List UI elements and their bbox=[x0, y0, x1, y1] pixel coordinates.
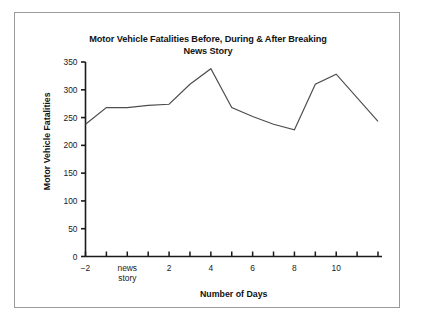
y-axis-tick-label: 300 bbox=[64, 85, 78, 95]
y-axis-tick-label: 350 bbox=[64, 57, 78, 67]
x-axis-tick-label: 10 bbox=[332, 263, 342, 273]
y-axis-tick-label: 200 bbox=[64, 140, 78, 150]
x-axis-tick-label: 2 bbox=[167, 263, 172, 273]
x-axis: −2newsstory246810 bbox=[81, 252, 382, 283]
y-axis-tick-label: 100 bbox=[64, 196, 78, 206]
x-axis-tick-label: 6 bbox=[250, 263, 255, 273]
x-axis-tick-label: news bbox=[118, 263, 138, 273]
y-axis-tick-label: 150 bbox=[64, 168, 78, 178]
line-chart-plot: 050100150200250300350 −2newsstory246810 … bbox=[0, 0, 421, 326]
x-axis-tick-label: story bbox=[118, 273, 137, 283]
x-axis-title: Number of Days bbox=[200, 289, 268, 299]
y-axis-title: Motor Vehicle Fatalities bbox=[42, 92, 52, 190]
y-axis-tick-label: 0 bbox=[73, 252, 78, 262]
y-axis-tick-label: 250 bbox=[64, 113, 78, 123]
y-axis: 050100150200250300350 bbox=[64, 57, 86, 262]
data-series-line bbox=[86, 69, 379, 130]
x-axis-tick-label: −2 bbox=[81, 263, 91, 273]
y-axis-tick-label: 50 bbox=[68, 224, 78, 234]
x-axis-tick-label: 4 bbox=[209, 263, 214, 273]
series-line bbox=[86, 69, 379, 130]
x-axis-tick-label: 8 bbox=[292, 263, 297, 273]
